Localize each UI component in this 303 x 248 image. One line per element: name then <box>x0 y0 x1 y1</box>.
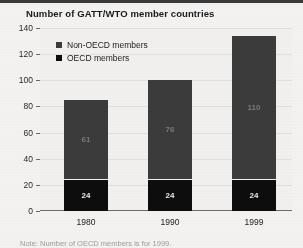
plot-area: 020406080100120140 Non-OECD members OECD… <box>40 28 292 211</box>
bar-group: 76241990 <box>148 80 192 211</box>
bar-segment-oecd: 24 <box>64 180 108 211</box>
legend-item-oecd: OECD members <box>56 53 148 63</box>
y-axis-tick-label: 140 <box>19 23 33 33</box>
bar-segment-oecd: 24 <box>148 180 192 211</box>
legend-item-non-oecd: Non-OECD members <box>56 40 148 50</box>
chart-title: Number of GATT/WTO member countries <box>26 8 214 19</box>
chart-legend: Non-OECD members OECD members <box>56 40 148 66</box>
bar-segment-oecd: 24 <box>232 180 276 211</box>
y-axis-tick-label: 0 <box>28 206 33 216</box>
bar-value-oecd: 24 <box>250 191 259 200</box>
y-axis-tick <box>36 54 40 55</box>
page-top-rule <box>0 0 303 3</box>
bar-segment-non-oecd: 61 <box>64 100 108 180</box>
y-axis-tick <box>36 106 40 107</box>
chart-figure: Number of GATT/WTO member countries 0204… <box>0 0 303 248</box>
y-axis-tick <box>36 185 40 186</box>
x-axis-label: 1980 <box>77 217 96 227</box>
bar-value-oecd: 24 <box>166 191 175 200</box>
bar-value-non-oecd: 76 <box>166 125 175 134</box>
y-axis-tick-label: 120 <box>19 49 33 59</box>
x-axis-label: 1990 <box>161 217 180 227</box>
y-axis-tick <box>36 133 40 134</box>
y-axis-tick <box>36 211 40 212</box>
y-axis-tick <box>36 28 40 29</box>
bar-group: 61241980 <box>64 100 108 211</box>
y-axis-tick-label: 40 <box>24 154 33 164</box>
y-axis-tick <box>36 159 40 160</box>
bar-value-oecd: 24 <box>82 191 91 200</box>
chart-note: Note: Number of OECD members is for 1999… <box>20 239 171 248</box>
bar-value-non-oecd: 61 <box>82 135 91 144</box>
legend-label-oecd: OECD members <box>67 53 129 63</box>
bar-segment-non-oecd: 76 <box>148 80 192 179</box>
legend-label-non-oecd: Non-OECD members <box>67 40 148 50</box>
y-axis-tick <box>36 80 40 81</box>
legend-swatch-oecd-icon <box>56 55 62 61</box>
gridline <box>40 28 292 29</box>
y-axis-tick-label: 100 <box>19 75 33 85</box>
y-axis-tick-label: 60 <box>24 128 33 138</box>
bar-value-non-oecd: 110 <box>248 103 261 112</box>
y-axis-tick-label: 80 <box>24 101 33 111</box>
bar-group: 110241999 <box>232 36 276 211</box>
y-axis-tick-label: 20 <box>24 180 33 190</box>
x-axis-label: 1999 <box>245 217 264 227</box>
legend-swatch-non-oecd-icon <box>56 42 62 48</box>
bar-segment-non-oecd: 110 <box>232 36 276 180</box>
